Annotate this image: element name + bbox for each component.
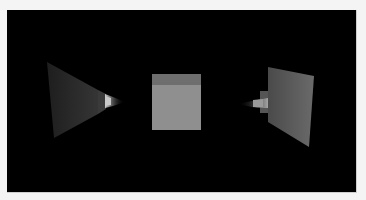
right-frustum[interactable] <box>237 67 314 147</box>
scene-canvas <box>7 10 356 192</box>
left-frustum[interactable] <box>47 62 125 138</box>
3d-viewport[interactable] <box>7 10 357 193</box>
center-cube[interactable] <box>152 74 201 130</box>
app-window <box>0 0 366 200</box>
